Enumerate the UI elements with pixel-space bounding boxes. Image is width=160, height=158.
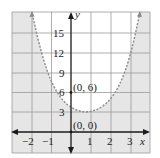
y-tick-15: 15 <box>53 28 64 39</box>
x-tick-1: 1 <box>87 136 93 147</box>
x-tick-neg2: −2 <box>22 136 34 147</box>
y-tick-3: 3 <box>59 107 65 118</box>
x-tick-neg1: −1 <box>42 136 54 147</box>
x-tick-3: 3 <box>127 136 133 147</box>
x-axis-label: x <box>140 136 145 147</box>
y-tick-12: 12 <box>53 48 64 59</box>
point-label-0-0: (0, 0) <box>73 120 97 131</box>
x-tick-2: 2 <box>107 136 113 147</box>
y-axis-label: y <box>75 9 80 20</box>
point-label-0-6: (0, 6) <box>73 82 97 93</box>
y-tick-6: 6 <box>59 87 65 98</box>
y-tick-9: 9 <box>59 68 65 79</box>
point-0-6 <box>70 91 73 94</box>
point-0-0 <box>70 131 73 134</box>
